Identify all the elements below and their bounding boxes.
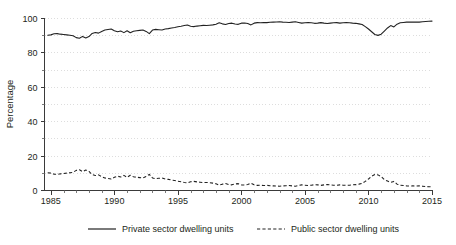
x-tick-label-1990: 1990 (104, 196, 124, 206)
x-tick-label-1995: 1995 (168, 196, 188, 206)
y-axis-title: Percentage (4, 80, 15, 129)
x-tick-label-2010: 2010 (358, 196, 378, 206)
y-tick-label-20: 20 (27, 152, 37, 162)
legend-label-private: Private sector dwelling units (122, 224, 234, 234)
x-tick-label-2015: 2015 (422, 196, 442, 206)
y-tick-label-100: 100 (22, 14, 37, 24)
x-tick-label-2005: 2005 (295, 196, 315, 206)
chart-background (0, 0, 456, 245)
y-tick-label-40: 40 (27, 117, 37, 127)
line-chart: 020406080100 198519901995200020052010201… (0, 0, 456, 245)
y-tick-label-0: 0 (32, 186, 37, 196)
y-tick-label-80: 80 (27, 48, 37, 58)
x-tick-label-1985: 1985 (41, 196, 61, 206)
y-tick-label-60: 60 (27, 83, 37, 93)
legend-label-public: Public sector dwelling units (291, 224, 400, 234)
x-tick-label-2000: 2000 (231, 196, 251, 206)
chart-container: 020406080100 198519901995200020052010201… (0, 0, 456, 245)
